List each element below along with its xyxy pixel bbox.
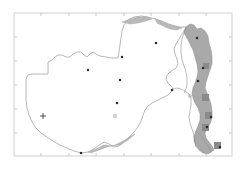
zambia-border	[26, 16, 186, 153]
cross-site-markers	[40, 113, 46, 119]
lake-tanganyika-edge	[155, 19, 182, 30]
site-marker	[206, 126, 208, 128]
malawi-highlight-layer	[184, 24, 221, 154]
zambia-outline-layer	[26, 16, 196, 153]
lake-mweru	[122, 17, 152, 24]
site-marker	[116, 102, 118, 104]
site-marker	[119, 79, 121, 81]
site-marker	[202, 67, 204, 69]
map-canvas	[0, 0, 247, 174]
site-marker	[155, 42, 157, 44]
map-figure	[0, 0, 247, 174]
lakes-layer	[88, 17, 182, 153]
cross-site-marker	[40, 113, 46, 119]
open-site-marker	[114, 115, 116, 117]
dark-patch	[202, 94, 209, 101]
site-marker	[80, 152, 82, 154]
site-marker	[171, 89, 173, 91]
site-marker	[87, 69, 89, 71]
open-site-markers	[114, 95, 191, 117]
site-marker	[196, 37, 198, 39]
zambezi-river	[88, 134, 135, 153]
site-marker	[197, 80, 199, 82]
site-marker	[219, 146, 221, 148]
site-marker	[210, 116, 212, 118]
site-marker	[121, 56, 123, 58]
malawi-region	[184, 24, 214, 152]
